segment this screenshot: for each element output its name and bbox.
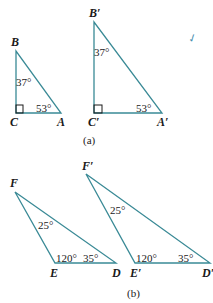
triangle-def: F E D 25° 120° 35°: [9, 176, 121, 280]
triangle-abc: B C A 37° 53°: [10, 35, 65, 129]
angle-f-prime-label: 25°: [110, 204, 125, 216]
angle-a-label: 53°: [36, 102, 51, 114]
caption-a: (a): [83, 134, 96, 147]
vertex-a-label: A: [56, 115, 65, 129]
angle-f-label: 25°: [38, 219, 53, 231]
angle-b-label: 37°: [16, 76, 31, 88]
angle-b-prime-label: 37°: [94, 46, 109, 58]
vertex-e-prime-label: E′: [129, 266, 141, 280]
angle-d-prime-label: 35°: [178, 252, 193, 264]
similar-triangles-diagram: B C A 37° 53° B′ C′ A′ 37° 53° (a) ✓ F E…: [0, 0, 213, 303]
triangle-def-prime: F′ E′ D′ 25° 120° 35°: [81, 159, 213, 280]
vertex-a-prime-label: A′: [156, 115, 168, 129]
vertex-b-prime-label: B′: [88, 6, 100, 20]
vertex-c-label: C: [10, 115, 19, 129]
checkmark-annotation-icon: ✓: [186, 31, 199, 46]
triangle-abc-prime: B′ C′ A′ 37° 53°: [88, 6, 168, 129]
vertex-e-label: E: [49, 266, 58, 280]
vertex-f-prime-label: F′: [81, 159, 93, 173]
caption-b: (b): [127, 287, 140, 300]
angle-a-prime-label: 53°: [136, 102, 151, 114]
vertex-d-label: D: [111, 266, 121, 280]
vertex-c-prime-label: C′: [88, 115, 99, 129]
angle-e-prime-label: 120°: [136, 252, 157, 264]
angle-e-label: 120°: [56, 252, 77, 264]
vertex-b-label: B: [10, 35, 19, 49]
angle-d-label: 35°: [83, 252, 98, 264]
vertex-f-label: F: [9, 176, 18, 190]
vertex-d-prime-label: D′: [201, 266, 213, 280]
